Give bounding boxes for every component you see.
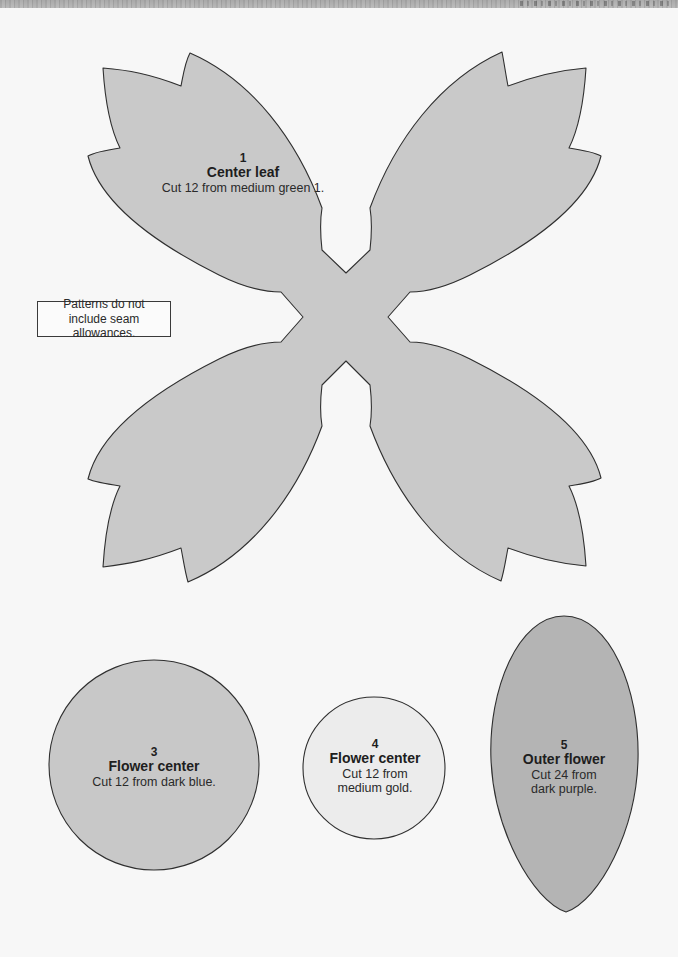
note-line-1: Patterns do not [38, 297, 170, 311]
center-leaf-label: 1 Center leaf Cut 12 from medium green 1… [162, 152, 325, 195]
pattern-number: 5 [523, 739, 605, 752]
pattern-instruction: Cut 12 from medium green 1. [162, 181, 325, 195]
pattern-instruction-line-1: Cut 12 from [329, 767, 420, 781]
pattern-name: Center leaf [162, 165, 325, 181]
pattern-shapes [0, 0, 678, 957]
note-line-2: include seam allowances. [38, 312, 170, 341]
outer-flower-label: 5 Outer flower Cut 24 from dark purple. [523, 739, 605, 796]
pattern-instruction-line-1: Cut 24 from [523, 768, 605, 782]
pattern-name: Flower center [329, 751, 420, 767]
pattern-instruction-line-2: medium gold. [329, 781, 420, 795]
pattern-instruction-line-2: dark purple. [523, 782, 605, 796]
seam-allowance-note: Patterns do not include seam allowances. [37, 301, 171, 337]
pattern-name: Flower center [92, 759, 216, 775]
pattern-number: 1 [162, 152, 325, 165]
pattern-instruction: Cut 12 from dark blue. [92, 775, 216, 789]
pattern-name: Outer flower [523, 752, 605, 768]
flower-center-small-label: 4 Flower center Cut 12 from medium gold. [329, 738, 420, 795]
flower-center-large-label: 3 Flower center Cut 12 from dark blue. [92, 746, 216, 789]
pattern-number: 3 [92, 746, 216, 759]
pattern-number: 4 [329, 738, 420, 751]
